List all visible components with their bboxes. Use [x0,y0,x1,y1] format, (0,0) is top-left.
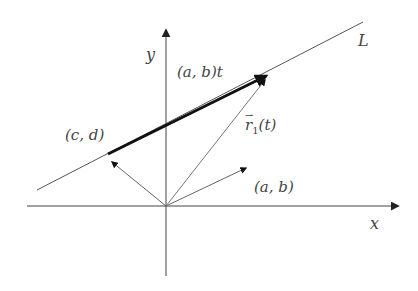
point-cd-label: (c, d) [65,128,104,143]
line-L-label: L [358,33,369,49]
position-vector-argument: (t) [259,116,277,134]
vector-r1 [166,80,265,206]
vector-abt [108,76,266,154]
vector-ab [166,168,246,206]
x-axis-label: x [370,216,379,232]
position-vector-label: ⇀ r 1(t) [245,118,276,136]
line-L [37,22,363,190]
y-axis-label: y [146,47,155,63]
scaled-direction-label: (a, b)t [177,65,223,80]
vector-cd [112,162,166,206]
vector-arrow-accent: ⇀ [245,111,253,121]
direction-ab-label: (a, b) [254,180,294,195]
vector-line-diagram [0,0,418,291]
